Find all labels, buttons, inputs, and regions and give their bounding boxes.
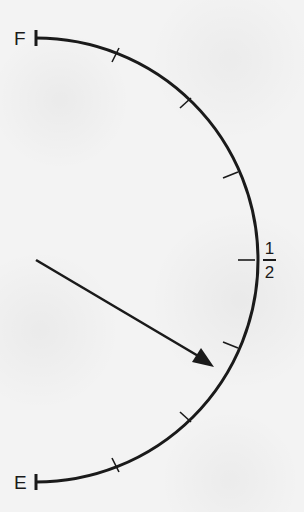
gauge-arc	[36, 38, 258, 482]
full-label: F	[14, 29, 26, 48]
gauge-ticks	[112, 48, 255, 472]
tick-3-4	[180, 98, 191, 108]
empty-label: E	[14, 473, 27, 492]
half-numerator: 1	[265, 240, 274, 257]
half-denominator: 2	[265, 264, 274, 281]
tick-5-8	[223, 172, 238, 178]
tick-1-4	[180, 412, 191, 422]
needle-shaft	[36, 260, 205, 360]
needle-arrowhead-icon	[192, 348, 214, 367]
fraction-bar	[263, 259, 276, 261]
fuel-gauge-diagram	[0, 0, 304, 512]
half-label: 1 2	[263, 240, 276, 281]
tick-3-8	[223, 342, 238, 348]
